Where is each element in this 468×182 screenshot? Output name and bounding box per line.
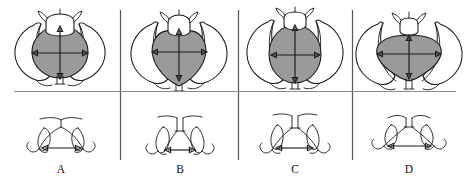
subpubic-arch-gynecoid bbox=[27, 118, 95, 153]
panel-platypelloid: D bbox=[356, 12, 462, 175]
panel-android: B bbox=[131, 10, 227, 175]
subpubic-arch-platypelloid bbox=[372, 115, 446, 149]
intertuberous-arrow-gynecoid bbox=[42, 145, 81, 150]
panel-label-a: A bbox=[57, 163, 66, 175]
intertuberous-arrow-anthropoid bbox=[276, 145, 313, 150]
pelvis-inlet-android bbox=[131, 10, 227, 91]
subpubic-arch-anthropoid bbox=[260, 114, 330, 153]
pelvis-inlet-anthropoid bbox=[247, 7, 343, 89]
panel-label-b: B bbox=[176, 163, 184, 175]
subpubic-arch-android bbox=[146, 116, 214, 154]
panel-label-d: D bbox=[405, 163, 413, 175]
pelvis-inlet-gynecoid bbox=[15, 9, 105, 86]
intertuberous-arrow-android bbox=[165, 147, 195, 152]
pelvis-types-figure: A bbox=[0, 0, 468, 182]
pelvis-inlet-platypelloid bbox=[356, 12, 462, 90]
panel-label-c: C bbox=[291, 163, 299, 175]
